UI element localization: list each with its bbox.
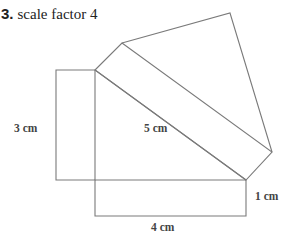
label-hypotenuse: 5 cm bbox=[144, 122, 168, 134]
geometry-diagram: 3 cm 5 cm 1 cm 4 cm bbox=[0, 0, 288, 232]
bottom-rectangle bbox=[95, 180, 246, 216]
label-left-side: 3 cm bbox=[14, 122, 38, 134]
label-bottom-side: 4 cm bbox=[151, 221, 175, 232]
label-right-side: 1 cm bbox=[255, 190, 279, 202]
left-rectangle bbox=[56, 70, 95, 180]
